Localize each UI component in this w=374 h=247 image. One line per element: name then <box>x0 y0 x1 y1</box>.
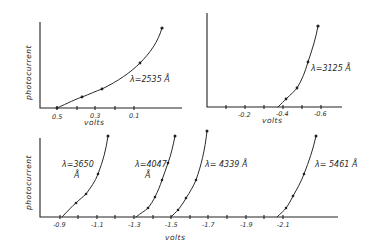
lambda-label-5461: λ= 5461 Å <box>314 158 357 169</box>
panel-top-right: -0.2 -0.4 -0.6 volts λ=3125 Å <box>207 13 351 125</box>
tick-label: -1.5 <box>165 221 178 229</box>
axes-bottom <box>40 138 338 217</box>
tick-label: -0.2 <box>238 111 251 119</box>
curve-2535 <box>57 28 162 108</box>
lambda-unit-3650: Å <box>73 169 79 180</box>
x-axis-label: volts <box>84 118 104 127</box>
data-points-5461 <box>285 135 318 210</box>
lambda-label-3650: λ=3650 <box>61 160 94 169</box>
photoelectric-figure: 0.5 0.3 0.1 volts photocurrent λ=2535 Å … <box>0 0 374 247</box>
data-points-3125 <box>285 24 320 100</box>
curve-3650 <box>62 136 108 217</box>
lambda-label-4047: λ=4047 <box>134 160 168 169</box>
data-points-4047 <box>147 135 177 210</box>
data-points-4339 <box>177 130 209 212</box>
tick-label: -0.6 <box>314 110 327 118</box>
tick-label: -1.3 <box>128 221 141 229</box>
x-axis-label: volts <box>165 233 185 242</box>
data-points-2535 <box>56 26 164 109</box>
data-points-3650 <box>75 135 110 205</box>
curve-5461 <box>277 136 316 217</box>
curve-4339 <box>171 131 207 217</box>
panel-bottom: -0.9 -1.1 -1.3 -1.5 -1.7 -1.9 -2.1 volts… <box>24 130 357 243</box>
tick-label: -1.9 <box>240 221 253 229</box>
tick-label: -1.1 <box>91 221 104 229</box>
curve-4047 <box>136 136 175 217</box>
x-axis-label: volts <box>262 116 282 125</box>
lambda-label-2535: λ=2535 Å <box>129 73 170 84</box>
lambda-unit-4047: Å <box>144 169 150 180</box>
lambda-label-4339: λ= 4339 Å <box>204 158 247 169</box>
tick-label: -1.7 <box>202 221 216 229</box>
tick-label: -2.1 <box>277 221 290 229</box>
y-axis-label: photocurrent <box>24 154 33 211</box>
panel-top-left: 0.5 0.3 0.1 volts photocurrent λ=2535 Å <box>24 22 182 127</box>
lambda-label-3125: λ=3125 Å <box>310 62 351 73</box>
tick-label: 0.1 <box>129 112 139 120</box>
axes-top-right <box>207 13 342 107</box>
tick-label: -0.9 <box>53 221 66 229</box>
axes-top-left <box>40 22 182 108</box>
y-axis-label: photocurrent <box>24 44 33 101</box>
tick-label: 0.5 <box>52 113 62 121</box>
